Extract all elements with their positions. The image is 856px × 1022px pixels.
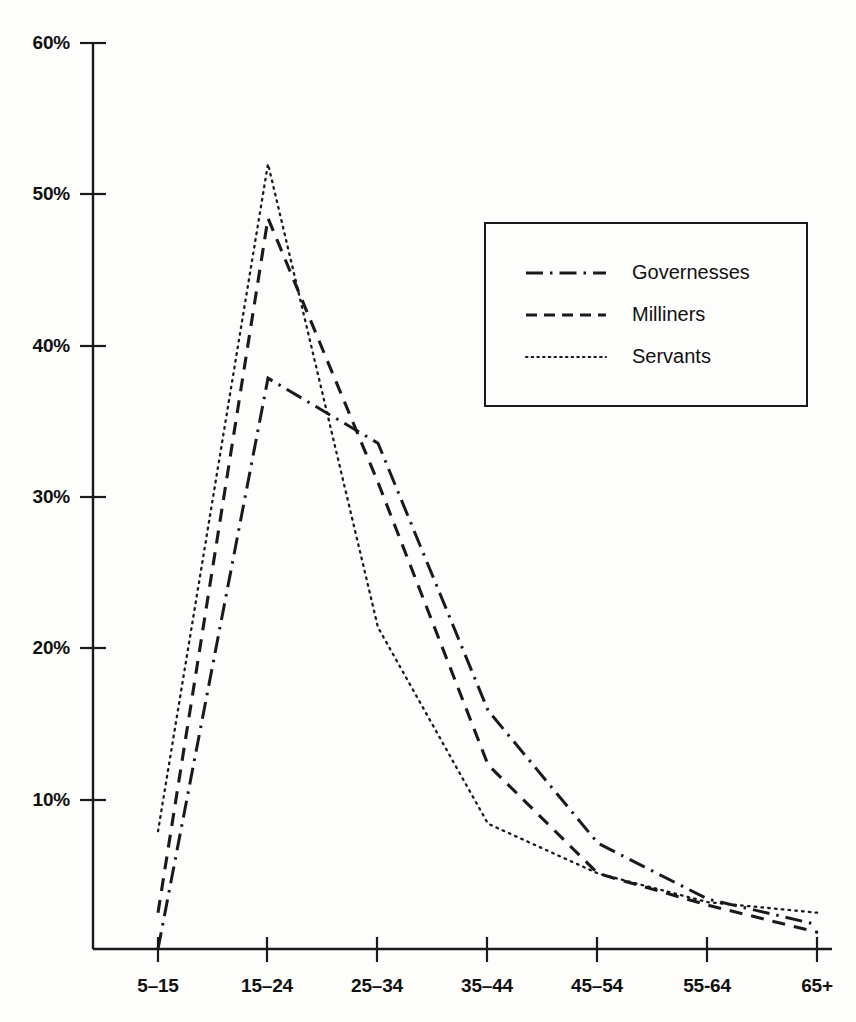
y-tick-label-60: 60% (0, 32, 70, 54)
legend-line-sample-milliners (524, 294, 608, 336)
chart-container: 60% 50% 40% 30% 20% 10% 5–15 15–24 25–34… (0, 0, 856, 1022)
legend-item-governesses: Governesses (486, 252, 806, 294)
legend-line-sample-servants (524, 336, 608, 378)
legend-item-servants: Servants (486, 336, 806, 378)
y-tick-label-20: 20% (0, 637, 70, 659)
y-tick-label-50: 50% (0, 183, 70, 205)
legend-label-milliners: Milliners (632, 303, 705, 326)
x-tick-label-55-64: 55-64 (657, 975, 757, 997)
y-tick-label-10: 10% (0, 789, 70, 811)
y-tick-label-30: 30% (0, 486, 70, 508)
series-line-governesses (158, 378, 818, 949)
x-tick-label-65plus: 65+ (767, 975, 856, 997)
chart-plot-area (0, 0, 856, 1022)
y-tick-label-40: 40% (0, 335, 70, 357)
legend-label-governesses: Governesses (632, 261, 750, 284)
x-tick-label-45-54: 45–54 (547, 975, 647, 997)
x-tick-label-15-24: 15–24 (217, 975, 317, 997)
legend-item-milliners: Milliners (486, 294, 806, 336)
legend-line-sample-governesses (524, 252, 608, 294)
x-tick-label-25-34: 25–34 (327, 975, 427, 997)
x-tick-label-5-15: 5–15 (108, 975, 208, 997)
x-tick-label-35-44: 35–44 (437, 975, 537, 997)
chart-legend: Governesses Milliners Servants (484, 222, 808, 407)
legend-label-servants: Servants (632, 345, 711, 368)
